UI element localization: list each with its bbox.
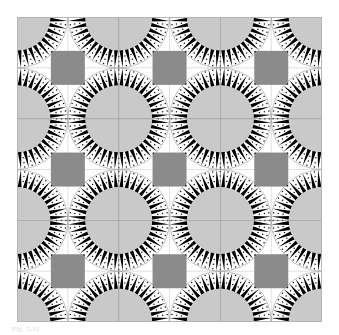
dot-marker <box>30 160 32 162</box>
dot-marker <box>39 278 41 280</box>
dot-marker <box>78 191 80 193</box>
dot-marker <box>106 156 108 158</box>
dot-marker <box>213 181 215 183</box>
dot-marker <box>233 160 235 162</box>
dot-marker <box>56 301 58 303</box>
dot-marker <box>263 140 265 142</box>
dot-marker <box>207 284 209 286</box>
dot-marker <box>153 34 155 36</box>
dot-marker <box>259 22 261 24</box>
dot-marker <box>51 202 53 204</box>
dot-marker <box>153 254 155 256</box>
dot-marker <box>266 235 268 237</box>
dot-marker <box>293 78 295 80</box>
dot-marker <box>31 173 33 175</box>
dot-marker <box>51 238 53 240</box>
dot-marker <box>89 259 91 261</box>
dot-marker <box>98 259 100 261</box>
dot-marker <box>95 150 97 152</box>
dot-marker <box>180 36 182 38</box>
dot-marker <box>188 290 190 292</box>
dot-marker <box>51 34 53 36</box>
dot-marker <box>104 279 106 281</box>
dot-marker <box>235 165 237 167</box>
dot-marker <box>282 301 284 303</box>
dot-marker <box>24 70 26 72</box>
dot-marker <box>308 177 310 179</box>
dot-marker <box>177 30 179 32</box>
dot-marker <box>51 303 53 305</box>
dot-marker <box>259 248 261 250</box>
dot-marker <box>240 158 242 160</box>
dot-marker <box>86 95 88 97</box>
dot-marker <box>95 86 97 88</box>
dot-marker <box>212 70 214 72</box>
dot-marker <box>165 205 167 207</box>
dot-marker <box>282 240 284 242</box>
dot-marker <box>89 282 91 284</box>
dot-marker <box>86 298 88 300</box>
dot-marker <box>197 278 199 280</box>
dot-marker <box>282 124 284 126</box>
dot-marker <box>278 39 280 41</box>
dot-marker <box>162 242 164 244</box>
dot-marker <box>98 158 100 160</box>
dot-marker <box>80 207 82 209</box>
dot-marker <box>256 144 258 146</box>
dot-marker <box>166 212 168 214</box>
dot-marker <box>153 83 155 85</box>
dot-marker <box>188 48 190 50</box>
dot-marker <box>100 184 102 186</box>
dot-marker <box>138 78 140 80</box>
dot-marker <box>248 180 250 182</box>
dot-marker <box>126 70 128 72</box>
dot-marker <box>100 286 102 288</box>
dot-marker <box>277 314 279 316</box>
dot-marker <box>141 252 143 254</box>
dot-marker <box>286 202 288 204</box>
dot-marker <box>158 138 160 140</box>
dot-marker <box>256 193 258 195</box>
dot-marker <box>110 70 112 72</box>
dot-marker <box>264 125 266 127</box>
dot-marker <box>284 28 286 30</box>
dot-marker <box>275 103 277 105</box>
dot-marker <box>100 153 102 155</box>
dot-marker <box>242 176 244 178</box>
dot-marker <box>154 92 156 94</box>
dot-marker <box>254 83 256 85</box>
dot-marker <box>132 76 134 78</box>
dot-marker <box>290 48 292 50</box>
dot-marker <box>133 173 135 175</box>
dot-marker <box>56 98 58 100</box>
dot-marker <box>306 266 308 268</box>
dot-marker <box>196 289 198 291</box>
dot-marker <box>213 277 215 279</box>
dot-marker <box>298 289 300 291</box>
dot-marker <box>238 83 240 85</box>
dot-marker <box>293 282 295 284</box>
dot-marker <box>242 60 244 62</box>
dot-marker <box>277 213 279 215</box>
dot-marker <box>52 295 54 297</box>
dot-marker <box>299 162 301 164</box>
dot-marker <box>233 262 235 264</box>
dot-marker <box>177 233 179 235</box>
dot-marker <box>184 246 186 248</box>
dot-marker <box>275 306 277 308</box>
dot-marker <box>308 262 310 264</box>
dot-marker <box>125 74 127 76</box>
dot-marker <box>140 176 142 178</box>
dot-marker <box>252 196 254 198</box>
dot-marker <box>158 240 160 242</box>
dot-marker <box>197 60 199 62</box>
dot-marker <box>188 188 190 190</box>
dot-marker <box>184 202 186 204</box>
dot-marker <box>55 213 57 215</box>
dot-marker <box>162 140 164 142</box>
dot-marker <box>180 248 182 250</box>
dot-marker <box>104 76 106 78</box>
dot-marker <box>83 185 85 187</box>
dot-marker <box>268 110 270 112</box>
dot-marker <box>144 184 146 186</box>
